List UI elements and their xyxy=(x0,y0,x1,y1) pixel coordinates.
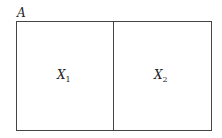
partition-subscript: 2 xyxy=(163,75,168,84)
partition-divider xyxy=(113,21,114,130)
set-label-a: A xyxy=(17,6,26,20)
partition-label-x1: X1 xyxy=(57,68,71,84)
partition-symbol: X xyxy=(154,68,163,82)
partition-symbol: X xyxy=(57,68,66,82)
partition-label-x2: X2 xyxy=(154,68,168,84)
partition-subscript: 1 xyxy=(66,75,71,84)
set-rectangle xyxy=(16,21,212,131)
